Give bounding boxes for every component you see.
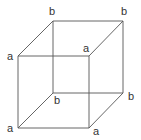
label-back-bottom-right: b bbox=[128, 90, 134, 102]
label-back-top-left: b bbox=[49, 5, 55, 17]
depth-edges bbox=[18, 21, 123, 128]
label-front-top-left: a bbox=[7, 50, 14, 62]
label-front-bottom-left: a bbox=[7, 122, 14, 134]
edge-bottom-left-depth bbox=[18, 93, 53, 128]
edge-top-right-depth bbox=[89, 21, 123, 56]
edge-bottom-right-depth bbox=[89, 93, 123, 128]
edge-top-left-depth bbox=[18, 21, 53, 56]
vertex-labels: b b b b a a a a bbox=[7, 5, 134, 137]
label-front-bottom-right: a bbox=[93, 125, 100, 137]
label-back-top-right: b bbox=[121, 5, 127, 17]
label-front-top-right: a bbox=[83, 42, 90, 54]
label-back-bottom-left: b bbox=[54, 94, 60, 106]
cube-diagram: b b b b a a a a bbox=[0, 0, 141, 140]
